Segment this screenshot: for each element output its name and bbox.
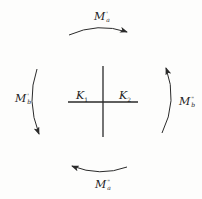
label-moment-left: M'b (15, 93, 31, 105)
label-moment-bottom: M"a (95, 179, 111, 191)
label-k1: K1 (76, 90, 88, 103)
bottom-arc-arrow (72, 166, 127, 172)
label-moment-top: M'a (94, 11, 110, 23)
right-arc-arrow (162, 68, 171, 133)
left-arc-arrow (32, 69, 39, 134)
label-k2: K2 (119, 90, 131, 103)
diagram-canvas: K1 K2 M'a M'b M"b M"a (0, 0, 202, 199)
label-moment-right: M"b (179, 96, 195, 108)
top-arc-arrow (69, 28, 127, 35)
